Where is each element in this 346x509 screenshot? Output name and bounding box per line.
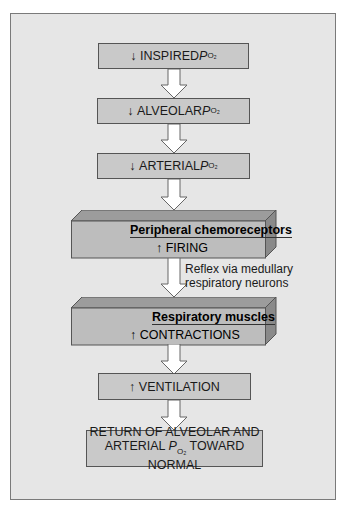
down-arrow-icon: ↓ bbox=[130, 49, 136, 63]
arterial-po2-box: ↓ ARTERIAL PO₂ bbox=[97, 153, 250, 179]
box-label: ALVEOLAR bbox=[137, 104, 202, 118]
p-symbol: P bbox=[199, 49, 207, 63]
box-label: FIRING bbox=[166, 241, 208, 255]
p-symbol: P bbox=[200, 159, 208, 173]
down-arrow-icon: ↓ bbox=[127, 104, 133, 118]
p-symbol: P bbox=[169, 439, 177, 453]
return-normal-box: RETURN OF ALVEOLAR AND ARTERIAL PO₂ TOWA… bbox=[86, 430, 263, 467]
reflex-note: Reflex via medullaryrespiratory neurons bbox=[185, 262, 293, 290]
o2-subscript: O₂ bbox=[208, 159, 217, 173]
box-title: Peripheral chemoreceptors bbox=[130, 223, 292, 238]
inspired-po2-box: ↓ INSPIRED PO₂ bbox=[98, 43, 249, 69]
up-arrow-icon: ↑ bbox=[129, 380, 135, 394]
down-arrow-icon: ↓ bbox=[129, 159, 135, 173]
peripheral-chemoreceptors-box: Peripheral chemoreceptors ↑ FIRING bbox=[71, 210, 277, 258]
flow-arrow-icon bbox=[160, 344, 188, 375]
box-label: INSPIRED bbox=[140, 49, 199, 63]
box-label: VENTILATION bbox=[139, 380, 220, 394]
box-label: CONTRACTIONS bbox=[140, 328, 240, 342]
respiratory-muscles-box: Respiratory muscles ↑ CONTRACTIONS bbox=[71, 297, 277, 345]
o2-subscript: O₂ bbox=[207, 49, 216, 63]
flow-arrow-icon bbox=[160, 258, 188, 298]
up-arrow-icon: ↑ bbox=[130, 328, 136, 342]
flow-arrow-icon bbox=[160, 69, 188, 99]
alveolar-po2-box: ↓ ALVEOLAR PO₂ bbox=[97, 98, 250, 124]
flow-arrow-icon bbox=[160, 124, 188, 154]
ventilation-box: ↑ VENTILATION bbox=[98, 373, 251, 400]
box-line: RETURN OF ALVEOLAR AND bbox=[90, 425, 260, 439]
p-symbol: P bbox=[202, 104, 210, 118]
box-label: ARTERIAL bbox=[139, 159, 200, 173]
box-title: Respiratory muscles bbox=[152, 310, 275, 325]
o2-subscript: O₂ bbox=[210, 104, 219, 118]
o2-subscript: O₂ bbox=[177, 446, 186, 455]
note-line: respiratory neurons bbox=[185, 276, 293, 290]
box-line: ARTERIAL bbox=[105, 439, 169, 453]
note-line: Reflex via medullary bbox=[185, 262, 293, 276]
flow-arrow-icon bbox=[160, 179, 188, 211]
up-arrow-icon: ↑ bbox=[156, 241, 162, 255]
